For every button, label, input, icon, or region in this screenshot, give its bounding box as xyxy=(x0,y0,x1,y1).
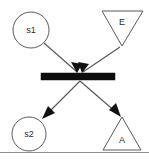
node-label-s2: s2 xyxy=(24,129,34,139)
arc-e-to-transition[interactable] xyxy=(78,47,120,73)
arc-transition-to-a[interactable] xyxy=(80,81,121,117)
arc-layer xyxy=(42,43,121,119)
node-label-s1: s1 xyxy=(26,25,36,35)
node-label-e: E xyxy=(119,17,125,27)
diagram-canvas: s1 E s2 A xyxy=(0,0,149,160)
transition-bar[interactable] xyxy=(41,73,115,80)
petri-net-diagram: s1 E s2 A xyxy=(0,0,149,160)
node-a[interactable]: A xyxy=(103,117,141,150)
triangle-down-e xyxy=(102,11,143,46)
node-e[interactable]: E xyxy=(102,11,143,46)
arc-line-e-transition xyxy=(83,47,120,72)
arc-s1-to-transition[interactable] xyxy=(44,43,82,73)
node-s1[interactable]: s1 xyxy=(13,12,49,48)
node-s2[interactable]: s2 xyxy=(12,117,46,151)
node-label-a: A xyxy=(119,135,125,145)
arc-transition-to-s2[interactable] xyxy=(42,81,80,119)
arrow-head-into-a xyxy=(109,103,121,117)
arc-line-s1-transition xyxy=(44,43,77,72)
